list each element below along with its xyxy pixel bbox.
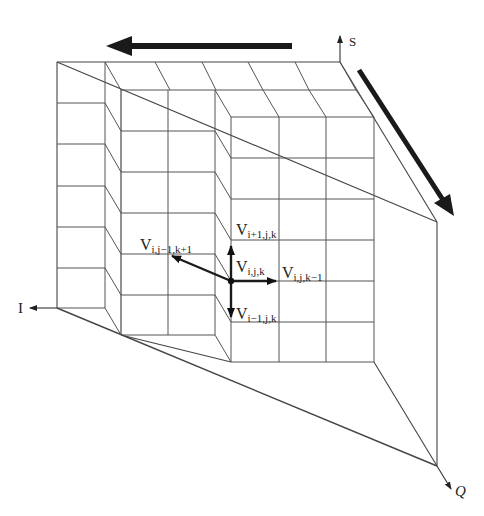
label-v-i-minus-1-j-k: Vi−1,j,k <box>236 306 276 324</box>
label-v-i-plus-1-j-k: Vi+1,j,k <box>236 222 276 240</box>
label-v-i-j-k: Vi,j,k <box>236 259 265 277</box>
label-base: V <box>236 258 248 275</box>
left-column <box>57 62 121 335</box>
s-axis-label: S <box>349 35 356 48</box>
arrow-back <box>172 256 231 281</box>
i-axis-label: I <box>18 301 23 316</box>
label-v-i-j-k-minus-1: Vi,j,k−1 <box>282 265 322 283</box>
flow-arrow-left-head <box>106 36 132 56</box>
label-sub: i,j,k <box>248 265 265 277</box>
label-base: V <box>140 236 152 253</box>
label-base: V <box>236 305 248 322</box>
label-base: V <box>236 221 248 238</box>
q-axis-label: Q <box>455 484 466 499</box>
label-sub: i−1,j,k <box>248 312 277 324</box>
center-node <box>228 278 234 284</box>
label-sub: i+1,j,k <box>248 228 277 240</box>
label-sub: i,j−1,k+1 <box>152 243 193 255</box>
flow-arrows <box>106 36 454 216</box>
q-axis <box>437 466 451 489</box>
label-base: V <box>282 264 294 281</box>
label-sub: i,j,k−1 <box>294 271 323 283</box>
label-v-i-j-minus-1-k-plus-1: Vi,j−1,k+1 <box>140 237 192 255</box>
flow-arrow-diag <box>359 70 443 200</box>
